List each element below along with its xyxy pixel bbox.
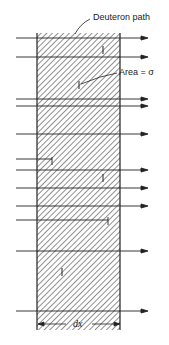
dx-label: dx	[73, 319, 82, 329]
cross-section-diagram	[0, 0, 169, 345]
area-sigma-label: Area = σ	[119, 68, 154, 77]
target-slab	[37, 33, 120, 330]
path-label-leader	[75, 19, 90, 34]
deuteron-path-label: Deuteron path	[93, 13, 150, 22]
